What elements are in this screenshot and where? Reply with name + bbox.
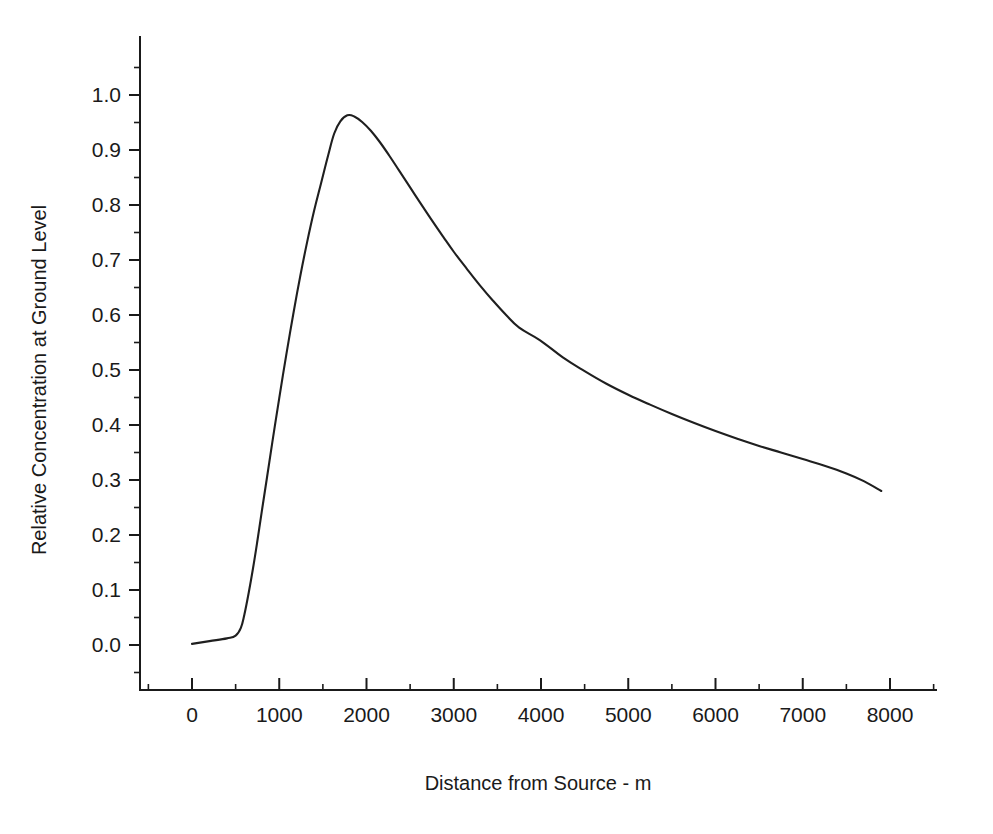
- y-tick-label: 0.2: [92, 523, 121, 546]
- y-tick-label: 0.8: [92, 193, 121, 216]
- y-tick-label: 0.0: [92, 633, 121, 656]
- chart-figure: 0.00.10.20.30.40.50.60.70.80.91.0 010002…: [0, 0, 993, 834]
- x-axis-title: Distance from Source - m: [425, 772, 652, 794]
- y-tick-label: 0.4: [92, 413, 122, 436]
- x-axis-tick-labels: 010002000300040005000600070008000: [186, 703, 913, 726]
- x-tick-label: 2000: [343, 703, 390, 726]
- y-tick-label: 0.9: [92, 138, 121, 161]
- axes-lines: [140, 37, 936, 690]
- y-tick-label: 0.7: [92, 248, 121, 271]
- data-curve-line: [192, 115, 881, 644]
- x-tick-label: 3000: [430, 703, 477, 726]
- x-tick-label: 4000: [518, 703, 565, 726]
- x-tick-label: 5000: [605, 703, 652, 726]
- y-tick-label: 0.1: [92, 578, 121, 601]
- y-tick-label: 0.3: [92, 468, 121, 491]
- chart-plot-area: 0.00.10.20.30.40.50.60.70.80.91.0 010002…: [0, 0, 993, 834]
- x-tick-label: 0: [186, 703, 198, 726]
- x-axis-major-ticks: [192, 678, 890, 690]
- y-axis-tick-labels: 0.00.10.20.30.40.50.60.70.80.91.0: [92, 83, 122, 656]
- x-tick-label: 1000: [256, 703, 303, 726]
- y-tick-label: 1.0: [92, 83, 121, 106]
- x-tick-label: 8000: [867, 703, 914, 726]
- x-tick-label: 6000: [692, 703, 739, 726]
- x-tick-label: 7000: [779, 703, 826, 726]
- y-tick-label: 0.6: [92, 303, 121, 326]
- y-tick-label: 0.5: [92, 358, 121, 381]
- y-axis-title: Relative Concentration at Ground Level: [28, 205, 50, 555]
- data-series-group: [192, 115, 881, 644]
